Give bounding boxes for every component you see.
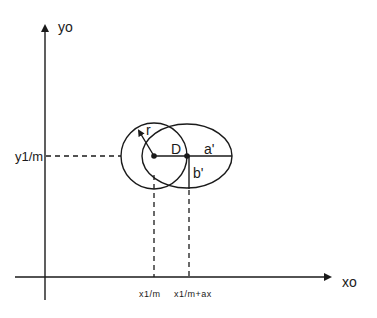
diagram-canvas <box>0 0 377 318</box>
y-axis-label: yo <box>58 20 73 34</box>
ellipse-center-dot <box>184 153 190 159</box>
x-tick-label-2: x1/m+ax <box>174 290 212 299</box>
circle-center-dot <box>151 153 157 159</box>
x-tick-label-1: x1/m <box>139 290 161 299</box>
semi-minor-label: b' <box>193 166 203 180</box>
x-axis-label: xo <box>342 275 357 289</box>
y-tick-label: y1/m <box>15 150 43 163</box>
radius-label: r <box>146 123 151 137</box>
semi-major-label: a' <box>204 142 214 156</box>
distance-label: D <box>171 142 181 156</box>
